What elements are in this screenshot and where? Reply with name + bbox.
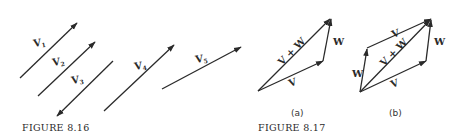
svg-text:V3: V3 <box>69 73 84 87</box>
vector-w-right <box>426 20 431 61</box>
vector-v-label: V <box>286 76 298 89</box>
vector-v5: V5 <box>162 47 241 89</box>
vector-v1: V1 <box>20 23 77 78</box>
vector-sum-label: V + W <box>275 35 308 68</box>
vector-w-label: W <box>332 36 345 47</box>
vector-v-bottom-label: V <box>388 77 400 90</box>
vector-w-left-label: W <box>351 68 364 79</box>
vector-v5-subscript: 5 <box>203 57 208 65</box>
figure-8-17-caption: FIGURE 8.17 <box>258 122 326 133</box>
vector-v1-subscript: 1 <box>41 41 46 49</box>
vector-v3-subscript: 3 <box>79 78 84 86</box>
vector-v4-subscript: 4 <box>142 64 147 72</box>
svg-text:V1: V1 <box>31 36 46 50</box>
figures-canvas: V1 V2 V3 V4 V5 FIGURE 8.16 V W V + W (a) <box>0 0 460 140</box>
figure-8-17-a: V W V + W (a) <box>258 19 345 118</box>
figure-8-17-b-label: (b) <box>389 108 402 118</box>
svg-text:V5: V5 <box>193 52 208 66</box>
figure-8-17-a-label: (a) <box>291 108 304 118</box>
vector-v4: V4 <box>104 45 174 111</box>
figure-8-17-b: V V W W V + W (b) <box>351 19 446 118</box>
figure-8-16: V1 V2 V3 V4 V5 FIGURE 8.16 <box>20 23 241 133</box>
svg-text:V4: V4 <box>132 59 147 73</box>
vector-w-right-label: W <box>433 36 446 47</box>
figure-8-16-caption: FIGURE 8.16 <box>22 122 90 133</box>
vector-v2-subscript: 2 <box>60 60 65 68</box>
svg-text:V2: V2 <box>50 55 65 69</box>
